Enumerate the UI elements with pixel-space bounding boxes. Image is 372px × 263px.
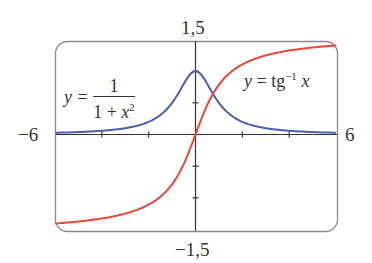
- y-min-label: −1,5: [175, 240, 209, 259]
- eq1-fraction: 1 1 + x2: [93, 76, 135, 122]
- eq2-func: = tg: [252, 71, 285, 91]
- eq2-exp: −1: [285, 70, 297, 82]
- eq1-den-text: 1 +: [93, 102, 121, 122]
- eq2-var: y: [244, 71, 252, 91]
- x-min-label: −6: [18, 125, 38, 144]
- legend-arctan-equation: y = tg−1 x: [244, 70, 309, 92]
- eq2-arg: x: [297, 71, 310, 91]
- eq1-numerator: 1: [93, 76, 135, 97]
- y-max-label: 1,5: [181, 18, 205, 37]
- chart-canvas: [0, 0, 372, 263]
- eq1-lhs: y =: [64, 87, 89, 107]
- eq1-den-exp: 2: [129, 101, 135, 113]
- x-max-label: 6: [345, 125, 355, 144]
- eq1-denominator: 1 + x2: [93, 97, 135, 122]
- legend-reciprocal-equation: y = 1 1 + x2: [64, 76, 135, 122]
